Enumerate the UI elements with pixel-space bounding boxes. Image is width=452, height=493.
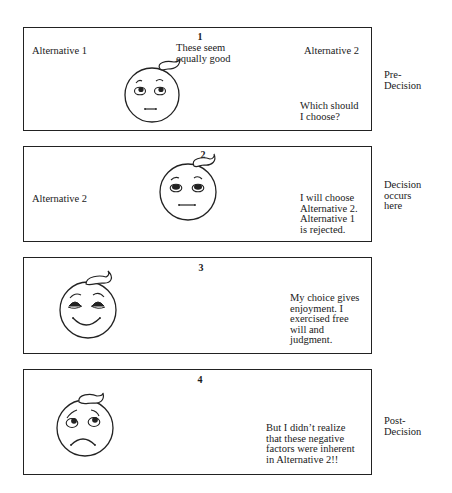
panel-3-number: 3 bbox=[199, 263, 204, 273]
thought-line: I choose? bbox=[300, 112, 359, 123]
panel-1-alternative-right: Alternative 2 bbox=[304, 46, 359, 57]
panel-1-thought-bottom: Which should I choose? bbox=[300, 101, 359, 122]
sad-face-icon bbox=[53, 388, 123, 460]
thought-line: But I didn’t realize bbox=[266, 423, 355, 434]
thought-line: These seem bbox=[176, 43, 231, 54]
neutral-face-icon bbox=[156, 150, 226, 224]
stage-label-pre-decision: Pre- Decision bbox=[384, 70, 421, 91]
thought-line: exercised free bbox=[290, 314, 359, 325]
stage-line: Pre- bbox=[384, 70, 421, 81]
thought-line: Which should bbox=[300, 101, 359, 112]
thought-line: I will choose bbox=[300, 193, 358, 204]
thought-line: judgment. bbox=[290, 335, 359, 346]
panel-1-alternative-left: Alternative 1 bbox=[32, 46, 87, 57]
thought-line: Alternative 1 bbox=[300, 214, 358, 225]
panel-1-number: 1 bbox=[198, 32, 203, 42]
stage-label-post-decision: Post- Decision bbox=[384, 416, 421, 437]
panel-4-thought: But I didn’t realize that these negative… bbox=[266, 423, 355, 465]
happy-face-icon bbox=[56, 270, 126, 342]
thought-line: factors were inherent bbox=[266, 444, 355, 455]
panel-3-thought: My choice gives enjoyment. I exercised f… bbox=[290, 293, 359, 346]
stage-line: Decision bbox=[384, 81, 421, 92]
thought-line: in Alternative 2!! bbox=[266, 455, 355, 466]
panel-4-number: 4 bbox=[198, 375, 203, 385]
thought-line: is rejected. bbox=[300, 225, 358, 236]
stage-line: Decision bbox=[384, 427, 421, 438]
stage-line: Decision bbox=[384, 180, 421, 191]
stage-line: here bbox=[384, 201, 421, 212]
stage-line: Post- bbox=[384, 416, 421, 427]
stage-label-decision: Decision occurs here bbox=[384, 180, 421, 212]
panel-2-alternative: Alternative 2 bbox=[32, 194, 87, 205]
uncertain-face-icon bbox=[120, 56, 190, 128]
thought-line: My choice gives bbox=[290, 293, 359, 304]
panel-2-thought: I will choose Alternative 2. Alternative… bbox=[300, 193, 358, 235]
